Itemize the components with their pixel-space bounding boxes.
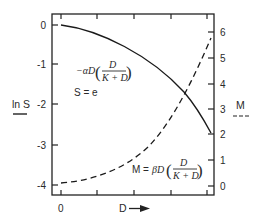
- x-axis-title: D: [119, 202, 127, 214]
- right-tick-label: 0: [220, 181, 226, 192]
- mutation-frac-num: D: [179, 157, 188, 168]
- right-tick-label: 6: [220, 27, 226, 38]
- close-paren: ): [197, 161, 203, 180]
- arrow-right-icon: [129, 205, 150, 212]
- survival-exponent: −αD: [76, 65, 96, 76]
- right-tick-label: 3: [220, 104, 226, 115]
- left-tick-label: -2: [37, 99, 46, 110]
- x-tick-label: 0: [58, 203, 64, 214]
- mutation-formula: M = βD ( D K + D ): [132, 157, 203, 181]
- mutation-frac-den: K + D: [172, 170, 199, 181]
- left-axis-ticks: [52, 25, 58, 185]
- right-tick-labels: 6 5 4 3 2 1 0: [220, 27, 226, 192]
- close-paren: ): [126, 63, 132, 82]
- open-paren: (: [166, 161, 172, 180]
- left-tick-labels: 0 -1 -2 -3 -4: [37, 20, 46, 191]
- open-paren: (: [95, 63, 101, 82]
- right-tick-label: 2: [220, 129, 226, 140]
- m-curve: [61, 38, 211, 183]
- survival-lhs: S = e: [74, 87, 98, 98]
- top-axis-ticks: [61, 14, 207, 19]
- chart: 0 -1 -2 -3 -4 6 5 4 3 2 1 0 0 D ln S M −…: [0, 0, 260, 220]
- left-axis-title: ln S: [12, 98, 30, 110]
- left-tick-label: 0: [40, 20, 46, 31]
- right-tick-label: 1: [220, 155, 226, 166]
- right-tick-label: 5: [220, 53, 226, 64]
- right-tick-label: 4: [220, 79, 226, 90]
- survival-frac-den: K + D: [101, 72, 128, 83]
- right-axis-ticks: [208, 32, 214, 186]
- ln-s-curve: [61, 25, 211, 133]
- left-tick-label: -1: [37, 59, 46, 70]
- left-tick-label: -4: [37, 180, 46, 191]
- mutation-coef: βD: [151, 164, 165, 175]
- left-tick-label: -3: [37, 140, 46, 151]
- survival-formula: −αD ( D K + D ) S = e: [74, 59, 132, 98]
- mutation-lhs: M =: [132, 164, 149, 175]
- right-axis-title: M: [236, 99, 245, 111]
- survival-frac-num: D: [108, 59, 117, 70]
- bottom-axis-ticks: [61, 190, 207, 195]
